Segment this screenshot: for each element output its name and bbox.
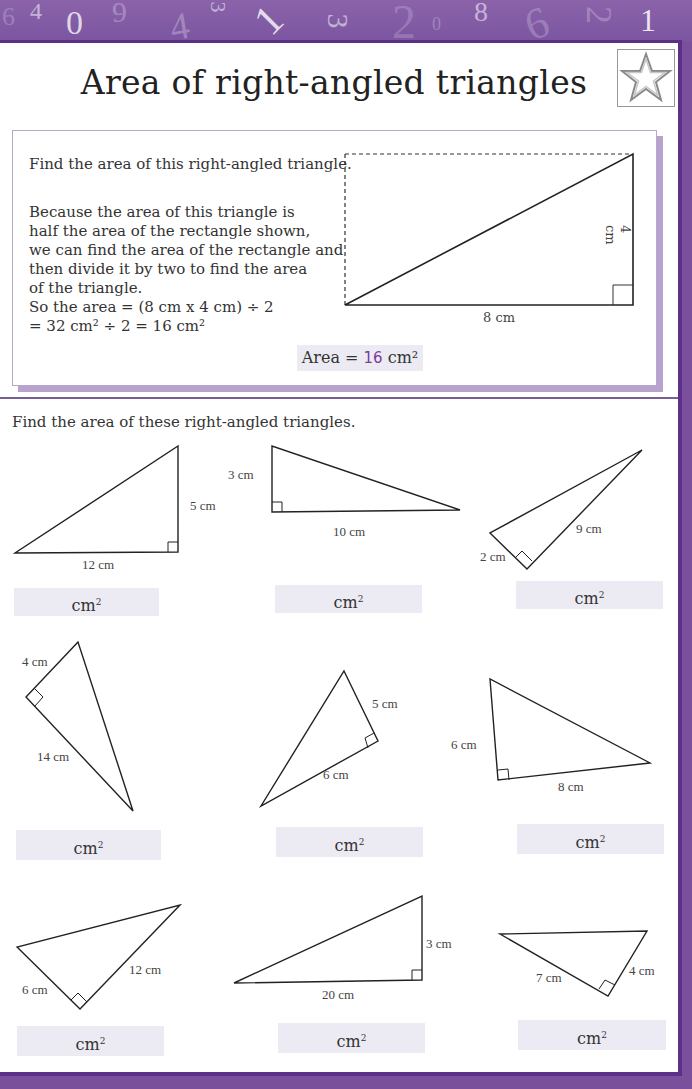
unit-label: cm bbox=[72, 596, 96, 615]
triangle-label: 5 cm bbox=[372, 696, 398, 711]
triangle-label: 4 cm bbox=[22, 654, 48, 669]
triangle-label: 4 cm bbox=[629, 963, 655, 978]
decorative-number: 8 bbox=[474, 0, 488, 28]
answer-input-6[interactable]: cm2 bbox=[517, 824, 664, 854]
answer-input-8[interactable]: cm2 bbox=[278, 1023, 425, 1053]
exercise-diagrams: 12 cm 5 cm 3 cm 10 cm 2 cm 9 cm 4 cm 14 … bbox=[0, 43, 678, 1073]
triangle-label: 14 cm bbox=[37, 749, 69, 764]
answer-input-1[interactable]: cm2 bbox=[14, 588, 159, 616]
triangle-label: 9 cm bbox=[576, 521, 602, 536]
decorative-number: 6 bbox=[518, 0, 556, 42]
answer-input-9[interactable]: cm2 bbox=[518, 1020, 666, 1050]
answer-input-2[interactable]: cm2 bbox=[275, 585, 422, 613]
triangle-label: 10 cm bbox=[333, 524, 365, 539]
answer-input-3[interactable]: cm2 bbox=[516, 581, 663, 609]
triangle-label: 3 cm bbox=[228, 467, 254, 482]
unit-sup: 2 bbox=[96, 597, 102, 607]
unit-label: cm bbox=[334, 593, 358, 612]
decorative-number: 6 bbox=[2, 2, 15, 32]
decorative-number: 3 bbox=[205, 2, 231, 13]
decorative-number: 1 bbox=[640, 2, 656, 39]
unit-sup: 2 bbox=[358, 594, 364, 604]
triangle-label: 12 cm bbox=[82, 557, 114, 572]
decorative-number: 1 bbox=[244, 0, 293, 42]
decorative-number: 2 bbox=[392, 0, 416, 42]
decorative-number: 4 bbox=[30, 0, 42, 25]
triangle-label: 2 cm bbox=[480, 549, 506, 564]
unit-sup: 2 bbox=[100, 1036, 106, 1046]
unit-sup: 2 bbox=[359, 837, 365, 847]
answer-input-4[interactable]: cm2 bbox=[16, 830, 161, 860]
header-band: 6 4 0 6 4 3 1 3 2 0 8 6 2 1 bbox=[0, 0, 692, 42]
answer-input-5[interactable]: cm2 bbox=[276, 827, 423, 857]
triangle-label: 6 cm bbox=[451, 737, 477, 752]
triangle-label: 5 cm bbox=[190, 498, 216, 513]
decorative-number: 0 bbox=[66, 4, 83, 42]
triangle-label: 20 cm bbox=[322, 987, 354, 1002]
decorative-number: 0 bbox=[432, 14, 441, 35]
unit-sup: 2 bbox=[601, 1030, 607, 1040]
unit-label: cm bbox=[74, 839, 98, 858]
decorative-number: 4 bbox=[166, 3, 192, 42]
unit-label: cm bbox=[76, 1035, 100, 1054]
unit-sup: 2 bbox=[599, 590, 605, 600]
unit-label: cm bbox=[576, 833, 600, 852]
unit-label: cm bbox=[337, 1032, 361, 1051]
triangle-label: 8 cm bbox=[558, 779, 584, 794]
triangle-label: 12 cm bbox=[129, 962, 161, 977]
unit-label: cm bbox=[335, 836, 359, 855]
triangle-label: 7 cm bbox=[536, 970, 562, 985]
decorative-number: 3 bbox=[321, 14, 355, 29]
triangle-label: 6 cm bbox=[22, 982, 48, 997]
unit-sup: 2 bbox=[361, 1033, 367, 1043]
triangle-label: 6 cm bbox=[323, 767, 349, 782]
unit-label: cm bbox=[577, 1029, 601, 1048]
decorative-number: 6 bbox=[112, 0, 127, 30]
unit-sup: 2 bbox=[600, 834, 606, 844]
answer-input-7[interactable]: cm2 bbox=[17, 1026, 164, 1056]
unit-label: cm bbox=[575, 589, 599, 608]
triangle-label: 3 cm bbox=[426, 936, 452, 951]
decorative-number: 2 bbox=[578, 6, 620, 24]
unit-sup: 2 bbox=[98, 840, 104, 850]
worksheet-page: Area of right-angled triangles Find the … bbox=[0, 40, 682, 1076]
